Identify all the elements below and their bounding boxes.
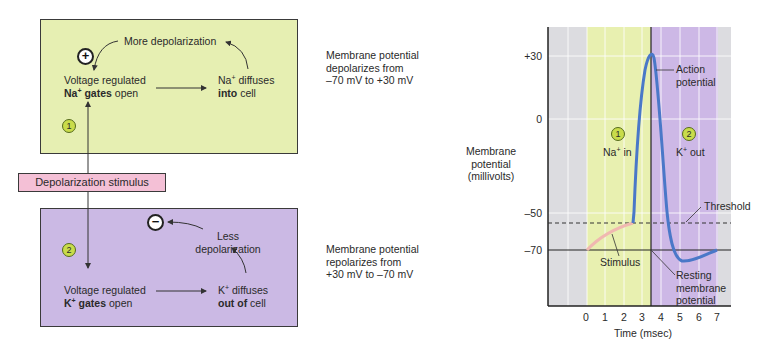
ylabel-line3: (millivolts): [456, 170, 526, 183]
ap-line1: Action: [676, 63, 716, 76]
region1-na-in-label: Na+ in: [603, 146, 632, 159]
x-tick-1: 1: [602, 311, 608, 324]
ylabel-line1: Membrane: [456, 145, 526, 158]
x-tick-5: 5: [677, 311, 683, 324]
x-tick-4: 4: [658, 311, 664, 324]
y-tick-0: 0: [520, 113, 542, 126]
na-ion: Na: [603, 146, 616, 158]
y-tick-30: +30: [520, 50, 542, 63]
out-word: out: [690, 146, 705, 158]
ylabel-line2: potential: [456, 158, 526, 171]
region1-badge: 1: [611, 127, 625, 141]
rest-line2: membrane: [676, 282, 726, 295]
threshold-label: Threshold: [704, 200, 751, 213]
ap-line2: potential: [676, 76, 716, 89]
rest-line1: Resting: [676, 269, 726, 282]
na-charge: +: [616, 146, 620, 153]
resting-potential-label: Resting membrane potential: [676, 269, 726, 307]
x-tick-7: 7: [714, 311, 720, 324]
y-axis-label: Membrane potential (millivolts): [456, 145, 526, 183]
x-tick-6: 6: [696, 311, 702, 324]
x-tick-3: 3: [639, 311, 645, 324]
action-potential-label: Action potential: [676, 63, 716, 88]
region2-badge: 2: [682, 127, 696, 141]
y-tick-minus50: –50: [520, 207, 542, 220]
x-tick-0: 0: [583, 311, 589, 324]
in-word: in: [623, 146, 631, 158]
stimulus-label: Stimulus: [600, 256, 640, 269]
x-axis-label: Time (msec): [614, 327, 672, 340]
rest-line3: potential: [676, 294, 726, 307]
y-tick-minus70: –70: [520, 244, 542, 257]
k-charge: +: [683, 146, 687, 153]
k-ion: K: [676, 146, 683, 158]
region2-k-out-label: K+ out: [676, 146, 705, 159]
chart-plot: [0, 0, 772, 352]
x-tick-2: 2: [621, 311, 627, 324]
